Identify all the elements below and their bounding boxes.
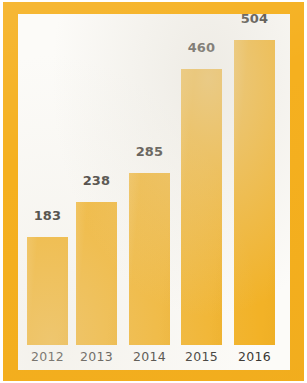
x-axis-label-2016: 2016 (234, 349, 275, 364)
chart-plot-panel: 183 238 285 460 504 (18, 14, 290, 370)
bar-2016[interactable] (234, 40, 275, 345)
x-axis-label-2015: 2015 (181, 349, 222, 364)
bar-value-2014: 285 (120, 144, 179, 159)
bar-2014[interactable] (129, 173, 170, 345)
bar-slot-2014: 285 (129, 14, 170, 345)
bar-value-2015: 460 (172, 40, 231, 55)
x-axis-labels: 2012 2013 2014 2015 2016 (18, 345, 290, 370)
x-axis-label-2012: 2012 (27, 349, 68, 364)
bar-slot-2013: 238 (76, 14, 117, 345)
bar-value-2013: 238 (67, 173, 126, 188)
bar-slot-2016: 504 (234, 14, 275, 345)
x-axis-label-2013: 2013 (76, 349, 117, 364)
bars-container: 183 238 285 460 504 (18, 14, 290, 345)
bar-value-2016: 504 (225, 14, 284, 26)
bar-2015[interactable] (181, 69, 222, 345)
bar-slot-2015: 460 (181, 14, 222, 345)
bar-2012[interactable] (27, 237, 68, 345)
bar-slot-2012: 183 (27, 14, 68, 345)
x-axis-label-2014: 2014 (129, 349, 170, 364)
bar-2013[interactable] (76, 202, 117, 345)
bar-value-2012: 183 (18, 208, 77, 223)
bar-chart-figure: 183 238 285 460 504 (0, 0, 307, 383)
